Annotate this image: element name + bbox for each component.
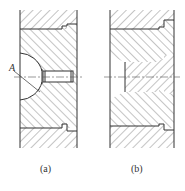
panel-a (14, 10, 84, 148)
panel-b (104, 10, 180, 148)
section-marker-leader (14, 71, 40, 92)
caption-b: (b) (131, 163, 143, 174)
panel-b-lower-middle-block (110, 90, 174, 128)
technical-section-drawing (0, 0, 185, 191)
section-marker-a: A (9, 62, 15, 73)
panel-a-middle-block (20, 24, 77, 128)
caption-a: (a) (40, 163, 51, 174)
